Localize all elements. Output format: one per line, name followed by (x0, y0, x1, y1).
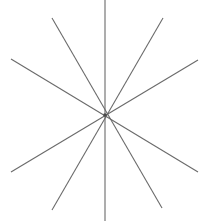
canvas-background (0, 0, 203, 221)
center-point-dot (103, 113, 107, 117)
radial-star-svg (0, 0, 203, 221)
figure-canvas (0, 0, 203, 221)
